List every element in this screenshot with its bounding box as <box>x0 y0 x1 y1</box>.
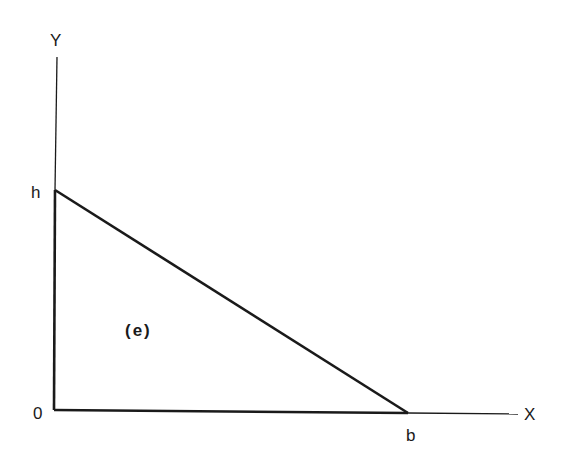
origin-label: 0 <box>33 404 42 423</box>
triangle-hypotenuse <box>55 190 408 413</box>
y-axis-label: Y <box>50 31 61 50</box>
height-label: h <box>31 183 40 202</box>
triangle-base-edge <box>54 410 408 413</box>
region-label: (e) <box>125 321 152 340</box>
x-axis <box>408 413 518 414</box>
y-axis <box>55 57 57 190</box>
triangle-vertical-edge <box>54 190 55 410</box>
diagram-canvas: Y X 0 h b (e) <box>0 0 564 464</box>
x-axis-label: X <box>524 405 535 424</box>
base-label: b <box>406 426 415 445</box>
